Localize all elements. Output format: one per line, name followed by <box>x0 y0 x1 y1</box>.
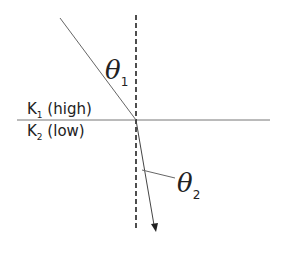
arrowhead-icon <box>151 223 158 232</box>
theta2-label: θ2 <box>177 170 200 196</box>
theta1-label: θ1 <box>105 57 128 83</box>
medium2-label: K2 (low) <box>27 124 85 141</box>
theta2-leader-line <box>142 170 175 178</box>
medium1-label: K1 (high) <box>27 102 92 119</box>
